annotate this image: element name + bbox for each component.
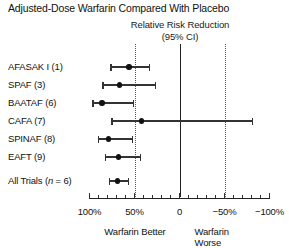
ci-bar: [103, 84, 155, 85]
axis-tick-major-0: [179, 193, 180, 198]
chart-title: Adjusted-Dose Warfarin Compared With Pla…: [8, 3, 229, 14]
row-label-cafa: CAFA (7): [8, 116, 45, 126]
ci-cap-low: [110, 64, 111, 71]
point-estimate-marker: [115, 178, 120, 183]
row-label-eaft: EAFT (9): [8, 152, 45, 162]
row-label-afasak-i: AFASAK I (1): [8, 62, 63, 72]
axis-tick-minor-10: [170, 195, 171, 198]
axis-tick-major-50: [134, 193, 135, 198]
ci-cap-low: [109, 178, 110, 185]
axis-footnote-left: Warfarin Better: [104, 226, 165, 237]
axis-tick-minor-80: [107, 195, 108, 198]
ci-bar: [106, 156, 141, 157]
point-estimate-marker: [117, 82, 122, 87]
axis-tick-minor-70: [116, 195, 117, 198]
point-estimate-marker: [139, 118, 144, 123]
axis-tick-major--100: [269, 193, 270, 198]
point-estimate-marker: [126, 64, 131, 69]
chart-column-header-line2: (95% CI): [162, 32, 199, 42]
axis-tick-label-minus100: −100%: [255, 206, 284, 217]
axis-tick-minor-20: [161, 195, 162, 198]
axis-tick-minor--60: [233, 195, 234, 198]
axis-tick-minor--80: [251, 195, 252, 198]
axis-tick-minor--40: [215, 195, 216, 198]
ci-bar: [99, 138, 133, 139]
ci-cap-low: [105, 154, 106, 161]
chart-column-header-line1: Relative Risk Reduction: [131, 20, 230, 30]
axis-line: [90, 198, 270, 199]
axis-tick-minor-40: [143, 195, 144, 198]
axis-tick-minor--20: [197, 195, 198, 198]
ci-cap-high: [140, 154, 141, 161]
ci-cap-low: [111, 118, 112, 125]
ci-cap-low: [98, 136, 99, 143]
point-estimate-marker: [99, 100, 104, 105]
row-label-baataf: BAATAF (6): [8, 98, 56, 108]
axis-tick-major--50: [224, 193, 225, 198]
point-estimate-marker: [116, 154, 121, 159]
axis-tick-minor--70: [242, 195, 243, 198]
ci-cap-low: [102, 82, 103, 89]
ci-cap-low: [92, 100, 93, 107]
axis-tick-minor-90: [98, 195, 99, 198]
axis-tick-minor-60: [125, 195, 126, 198]
axis-tick-label-100: 100%: [78, 206, 102, 217]
axis-tick-label-0: 0: [177, 206, 182, 217]
ci-cap-high: [132, 136, 133, 143]
row-label-all-trials: All Trials (n = 6): [8, 176, 72, 186]
axis-tick-major-100: [89, 193, 90, 198]
axis-tick-minor--30: [206, 195, 207, 198]
point-estimate-marker: [106, 136, 111, 141]
ci-cap-high: [252, 118, 253, 125]
axis-tick-minor--10: [188, 195, 189, 198]
ci-cap-high: [155, 82, 156, 89]
ci-cap-high: [128, 178, 129, 185]
row-label-spaf: SPAF (3): [8, 80, 45, 90]
ci-bar: [112, 120, 252, 121]
axis-tick-minor-30: [152, 195, 153, 198]
ci-cap-high: [133, 100, 134, 107]
row-label-spinaf: SPINAF (8): [8, 134, 55, 144]
axis-tick-label-minus50: −50%: [213, 206, 237, 217]
axis-footnote-right: Warfarin Worse: [195, 226, 258, 248]
axis-tick-label-50: 50%: [125, 206, 143, 217]
axis-tick-minor--90: [260, 195, 261, 198]
ci-cap-high: [149, 64, 150, 71]
